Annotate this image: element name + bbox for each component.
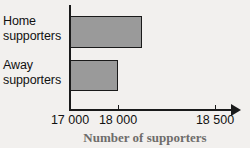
y-axis-line [69, 5, 71, 111]
bar-away-supporters [70, 60, 118, 91]
x-tick-mark-1 [118, 105, 119, 110]
bar-chart: Home supporters Away supporters 17 000 1… [0, 0, 250, 148]
x-tick-mark-0 [70, 105, 71, 110]
x-tick-label-1: 18 000 [88, 113, 148, 127]
bar-home-supporters [70, 16, 142, 48]
x-tick-label-2: 18 500 [185, 113, 245, 127]
x-axis-line [69, 109, 234, 111]
plot-area: 17 000 18 000 18 500 Number of supporter… [0, 0, 250, 148]
x-tick-mark-2 [215, 105, 216, 110]
x-axis-title: Number of supporters [50, 130, 240, 145]
